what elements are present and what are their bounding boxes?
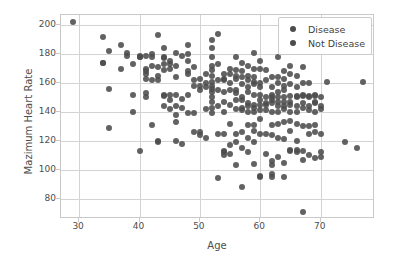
data-point — [118, 42, 124, 48]
data-point — [161, 45, 167, 51]
data-point — [185, 58, 191, 64]
data-point — [124, 53, 130, 59]
data-point — [137, 54, 143, 60]
data-point — [155, 139, 161, 145]
data-point — [306, 123, 312, 129]
data-point — [118, 66, 124, 72]
data-point — [130, 92, 136, 98]
data-point — [227, 142, 233, 148]
data-point — [185, 71, 191, 77]
y-tick-label: 80 — [14, 194, 56, 203]
data-point — [251, 139, 257, 145]
x-tick-label: 70 — [305, 222, 335, 231]
data-point — [281, 87, 287, 93]
data-point — [360, 79, 366, 85]
data-point — [300, 105, 306, 111]
data-point — [263, 151, 269, 157]
data-point — [269, 84, 275, 90]
data-point — [106, 125, 112, 131]
y-tick-label: 120 — [14, 136, 56, 145]
data-point — [257, 84, 263, 90]
data-point — [287, 71, 293, 77]
data-point — [167, 106, 173, 112]
data-point — [179, 141, 185, 147]
data-point — [161, 67, 167, 73]
data-point — [143, 76, 149, 82]
data-point — [209, 73, 215, 79]
data-point — [149, 54, 155, 60]
x-tick-mark — [320, 218, 321, 222]
data-point — [227, 102, 233, 108]
data-point — [185, 110, 191, 116]
data-point — [209, 54, 215, 60]
data-point — [245, 149, 251, 155]
data-point — [287, 81, 293, 87]
data-point — [287, 109, 293, 115]
gridline-horizontal — [61, 112, 373, 113]
data-point — [294, 138, 300, 144]
data-point — [173, 50, 179, 56]
data-point — [155, 32, 161, 38]
data-point — [155, 77, 161, 83]
data-point — [294, 94, 300, 100]
y-tick-label: 140 — [14, 107, 56, 116]
data-point — [161, 93, 167, 99]
data-point — [149, 77, 155, 83]
data-point — [312, 155, 318, 161]
data-point — [306, 80, 312, 86]
data-point — [173, 92, 179, 98]
data-point — [179, 105, 185, 111]
data-point — [306, 94, 312, 100]
data-point — [312, 109, 318, 115]
data-point — [100, 60, 106, 66]
data-point — [197, 87, 203, 93]
data-point — [221, 131, 227, 137]
data-point — [179, 96, 185, 102]
data-point — [227, 151, 233, 157]
data-point — [300, 80, 306, 86]
data-point — [149, 63, 155, 69]
legend-item-disease[interactable]: Disease — [284, 22, 366, 36]
data-point — [318, 94, 324, 100]
data-point — [173, 74, 179, 80]
data-point — [106, 86, 112, 92]
circle-marker-icon — [290, 26, 296, 32]
data-point — [312, 122, 318, 128]
data-point — [167, 66, 173, 72]
x-tick-label: 60 — [244, 222, 274, 231]
data-point — [287, 148, 293, 154]
data-point — [281, 76, 287, 82]
data-point — [318, 131, 324, 137]
x-axis-label: Age — [60, 240, 374, 251]
x-tick-mark — [78, 218, 79, 222]
scatter-plot-figure: 80100120140160180200 3040506070 Age Mazi… — [0, 0, 396, 264]
data-point — [215, 31, 221, 37]
x-tick-mark — [199, 218, 200, 222]
data-point — [269, 162, 275, 168]
data-point — [233, 139, 239, 145]
data-point — [306, 152, 312, 158]
data-point — [191, 129, 197, 135]
data-point — [239, 129, 245, 135]
data-point — [221, 109, 227, 115]
data-point — [191, 64, 197, 70]
data-point — [227, 121, 233, 127]
gridline-horizontal — [61, 170, 373, 171]
data-point — [251, 161, 257, 167]
gridline-horizontal — [61, 141, 373, 142]
data-point — [318, 106, 324, 112]
data-point — [233, 54, 239, 60]
gridline-vertical — [79, 15, 80, 217]
y-tick-label: 200 — [14, 20, 56, 29]
data-point — [185, 42, 191, 48]
data-point — [209, 99, 215, 105]
gridline-vertical — [200, 15, 201, 217]
data-point — [209, 110, 215, 116]
legend-item-not-disease[interactable]: Not Disease — [284, 36, 366, 50]
data-point — [215, 175, 221, 181]
chart-legend[interactable]: Disease Not Disease — [278, 17, 372, 55]
data-point — [173, 112, 179, 118]
data-point — [275, 154, 281, 160]
data-point — [179, 53, 185, 59]
data-point — [209, 37, 215, 43]
